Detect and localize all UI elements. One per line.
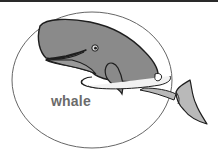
- water-ripple-front: [82, 77, 92, 84]
- whale-pupil: [94, 47, 97, 50]
- whale-tail-fluke: [176, 80, 207, 124]
- whale-body: [38, 19, 158, 81]
- set-label: whale: [51, 94, 91, 108]
- whale-tail-stock: [140, 88, 176, 100]
- water-splash: [155, 73, 162, 80]
- illustration: [0, 0, 218, 154]
